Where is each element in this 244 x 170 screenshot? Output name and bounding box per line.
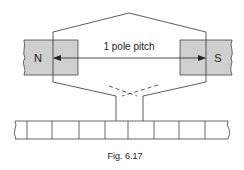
south-pole-label: S — [214, 52, 221, 64]
north-pole: N — [23, 40, 78, 75]
commutator — [14, 121, 230, 139]
pole-pitch-label: 1 pole pitch — [103, 41, 154, 52]
pole-pitch-diagram: N S 1 pole pitch Fig. 6.17 — [0, 0, 244, 170]
north-pole-label: N — [34, 52, 42, 64]
coil-end-dashed-right — [122, 85, 158, 96]
figure-caption: Fig. 6.17 — [107, 151, 142, 161]
coil-end-dashed-left — [109, 86, 137, 96]
